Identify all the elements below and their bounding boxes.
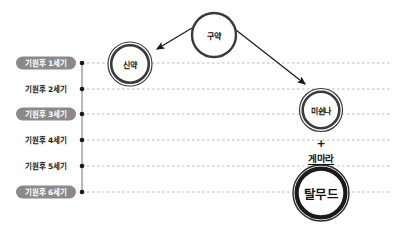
century-label-5: 기원후 5세기 [16,160,76,173]
arrow-old-to-new [157,28,192,49]
node-label-old-testament: 구약 [207,30,220,41]
node-label-new-testament: 신약 [123,59,136,70]
axis-tick-2 [80,87,85,92]
axis-tick-5 [80,164,85,169]
axis-tick-4 [80,138,85,143]
axis-tick-3 [80,112,85,117]
plus-icon: + [316,137,325,150]
gemara-label: 게마라 [308,151,334,165]
axis-tick-1 [80,61,85,66]
century-label-6: 기원후 6세기 [16,186,76,199]
century-label-4: 기원후 4세기 [16,134,76,147]
century-label-3: 기원후 3세기 [16,108,76,121]
axis-tick-6 [80,190,85,195]
node-label-talmud: 탈무드 [304,184,339,203]
century-label-1: 기원후 1세기 [16,57,76,70]
diagram-canvas [0,0,394,248]
timeline-diagram: 기원후 1세기기원후 2세기기원후 3세기기원후 4세기기원후 5세기기원후 6… [0,0,394,248]
century-label-2: 기원후 2세기 [16,83,76,96]
node-label-mishnah: 미쉰나 [311,105,331,116]
arrow-old-to-mishnah [236,30,305,84]
